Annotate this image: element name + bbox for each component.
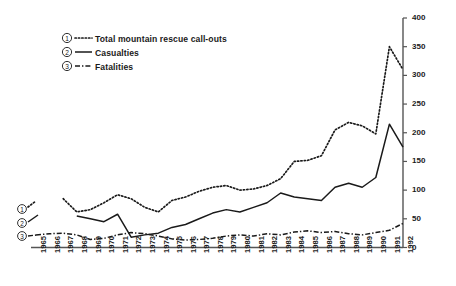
series-lead-in-3 <box>28 235 36 236</box>
series-start-number-1: 1 <box>20 206 24 213</box>
series-start-marker-group: 123 <box>0 0 456 286</box>
series-lead-in-2 <box>28 215 38 222</box>
series-start-number-2: 2 <box>20 220 24 227</box>
series-lead-in-1 <box>28 201 36 207</box>
series-start-number-3: 3 <box>20 233 24 240</box>
mountain-rescue-line-chart: 123 Total mountain rescue call-outs Casu… <box>0 0 456 286</box>
